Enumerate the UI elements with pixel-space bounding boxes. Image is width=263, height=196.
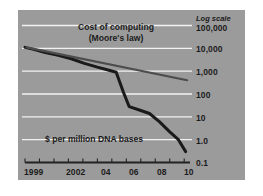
annotation-moore-line2: (Moore's law) (89, 33, 144, 43)
y-tick-label-0-1: 0.1 (196, 159, 208, 168)
series-line (26, 47, 187, 80)
annotation-dna-cost: $ per million DNA bases (30, 134, 158, 145)
x-tick-label-10: 10 (184, 168, 194, 177)
y-tick-label-10000: 10,000 (196, 45, 223, 54)
chart-figure: Log scale 100,000 10,000 1,000 100 10 1.… (0, 0, 263, 196)
annotation-moore-law: Cost of computing (Moore's law) (62, 22, 170, 43)
y-tick-label-1: 1.0 (196, 137, 208, 146)
annotation-moore-line1: Cost of computing (78, 22, 154, 32)
log-scale-note: Log scale (196, 14, 231, 23)
x-tick-label-04: 04 (101, 168, 111, 177)
y-tick-label-100: 100 (196, 91, 210, 100)
y-tick-label-100000: 100,000 (196, 24, 227, 33)
y-tick-label-10: 10 (196, 114, 206, 123)
x-tick-label-06: 06 (129, 168, 139, 177)
x-tick-label-1999: 1999 (24, 168, 43, 177)
x-tick-label-2002: 2002 (66, 168, 85, 177)
y-tick-label-1000: 1,000 (196, 68, 218, 77)
x-tick-label-08: 08 (157, 168, 167, 177)
